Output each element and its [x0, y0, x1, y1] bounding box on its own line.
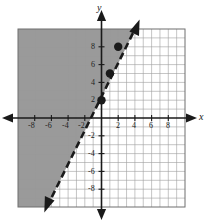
y-tick-label: 2 — [91, 96, 95, 104]
y-tick-label: -4 — [88, 150, 95, 158]
x-tick-label: -6 — [45, 122, 52, 130]
point-0-1 — [97, 96, 105, 104]
point-2-7 — [114, 43, 122, 51]
x-tick-label: -2 — [78, 122, 85, 130]
x-tick-label: -4 — [62, 122, 69, 130]
coordinate-plane — [0, 0, 210, 223]
x-tick-label: 4 — [132, 122, 136, 130]
x-tick-label: -8 — [28, 122, 35, 130]
x-tick-label: 8 — [166, 122, 170, 130]
y-tick-label: -8 — [88, 185, 95, 193]
y-tick-label: 6 — [91, 61, 95, 69]
y-tick-label: 4 — [91, 79, 95, 87]
x-tick-label: 2 — [116, 122, 120, 130]
y-tick-label: -2 — [88, 132, 95, 140]
y-tick-label: 8 — [91, 43, 95, 51]
x-axis-label: x — [199, 112, 203, 122]
y-axis-label: y — [97, 3, 101, 13]
y-tick-label: -6 — [88, 168, 95, 176]
point-1-4 — [106, 69, 114, 77]
x-tick-label: 6 — [149, 122, 153, 130]
graph-figure: y x -8 -6 -4 -2 2 4 6 8 8 6 4 2 -2 -4 -6… — [0, 0, 210, 223]
